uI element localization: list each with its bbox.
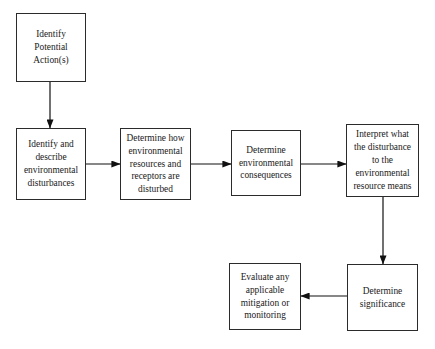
flowchart-node-label: Determine how environmental resources an… xyxy=(126,132,184,197)
flowchart-node-identify-potential-actions[interactable]: Identify Potential Action(s) xyxy=(16,13,86,82)
flowchart-canvas: Identify Potential Action(s)Identify and… xyxy=(0,0,435,349)
flowchart-node-label: Interpret what the disturbance to the en… xyxy=(353,128,411,193)
flowchart-node-label: Identify Potential Action(s) xyxy=(33,28,68,67)
flowchart-node-determine-environmental-consequences[interactable]: Determine environmental consequences xyxy=(231,130,301,196)
flowchart-node-determine-significance[interactable]: Determine significance xyxy=(347,264,418,331)
flowchart-node-label: Determine significance xyxy=(360,285,405,311)
flowchart-node-label: Identify and describe environmental dist… xyxy=(24,138,78,190)
flowchart-node-determine-how-disturbed[interactable]: Determine how environmental resources an… xyxy=(120,128,191,200)
flowchart-node-label: Determine environmental consequences xyxy=(239,144,293,183)
flowchart-node-identify-describe-disturbances[interactable]: Identify and describe environmental dist… xyxy=(16,128,86,200)
flowchart-node-interpret-disturbance-meaning[interactable]: Interpret what the disturbance to the en… xyxy=(346,124,419,197)
flowchart-node-label: Evaluate any applicable mitigation or mo… xyxy=(241,271,290,323)
flowchart-node-evaluate-mitigation-monitoring[interactable]: Evaluate any applicable mitigation or mo… xyxy=(229,263,301,330)
